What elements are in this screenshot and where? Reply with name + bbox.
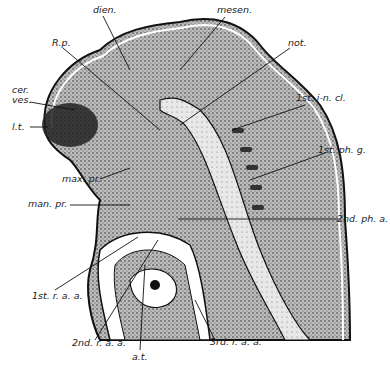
label-diencephalon: dien. <box>93 5 117 15</box>
label-second-pharyngeal-arch: 2nd. ph. a. <box>337 214 388 224</box>
label-rathkes-pouch: R.p. <box>52 38 71 48</box>
label-lamina-terminalis: l.t. <box>12 122 24 132</box>
label-first-inner-neural-cleft: 1st. i-n. cl. <box>296 93 346 103</box>
label-mandibular-process: man. pr. <box>28 199 67 209</box>
label-maxillary-process: max. pr. <box>62 174 101 184</box>
label-first-pharyngeal-groove: 1st. ph. g. <box>318 145 366 155</box>
label-notochord: not. <box>288 38 307 48</box>
label-first-aortic-arch: 1st. r. a. a. <box>32 291 83 301</box>
label-aortic-trunk: a.t. <box>132 352 148 362</box>
label-third-aortic-arch: 3rd. r. a. a. <box>210 337 262 347</box>
label-vesicle: ves. <box>12 95 31 105</box>
embryo-diagram <box>0 0 390 371</box>
label-mesencephalon: mesen. <box>217 5 252 15</box>
label-second-aortic-arch: 2nd. r. a. a. <box>72 338 126 348</box>
cerebral-vesicle <box>42 103 98 147</box>
